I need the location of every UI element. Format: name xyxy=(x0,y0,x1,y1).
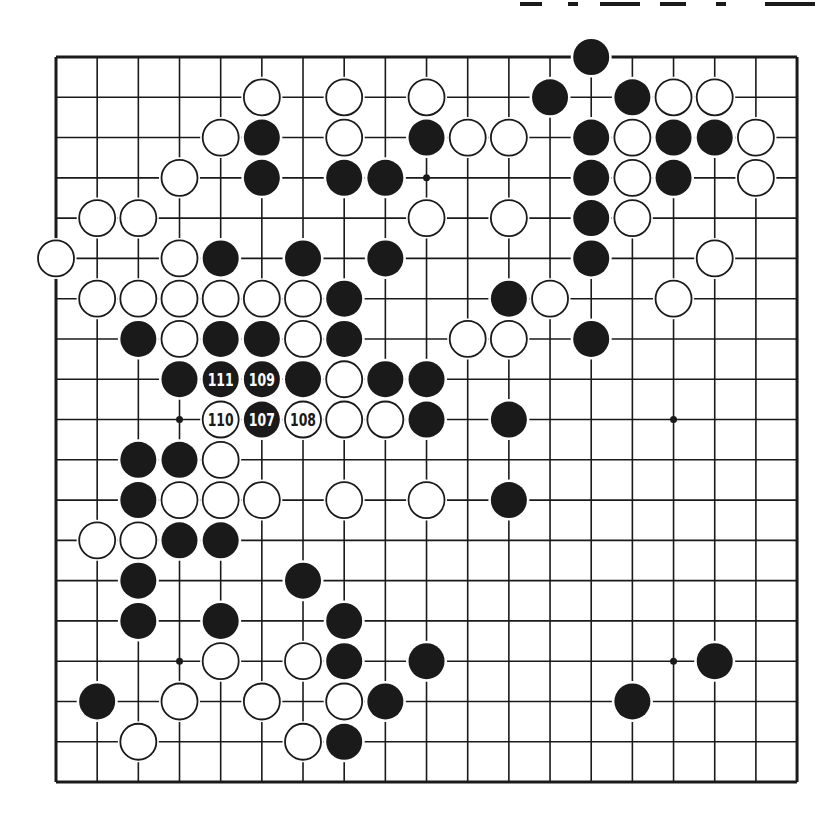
white-stone xyxy=(159,278,200,319)
black-stone: 111 xyxy=(200,359,241,400)
white-stone xyxy=(159,681,200,722)
black-stone xyxy=(283,238,324,279)
black-stone xyxy=(406,359,447,400)
black-stone xyxy=(571,198,612,239)
white-stone xyxy=(447,117,488,158)
black-stone xyxy=(488,278,529,319)
white-stone xyxy=(406,198,447,239)
black-stone xyxy=(488,480,529,521)
black-stone xyxy=(406,117,447,158)
white-stone xyxy=(118,721,159,762)
black-stone xyxy=(283,359,324,400)
black-stone xyxy=(324,157,365,198)
white-stone xyxy=(324,77,365,118)
white-stone xyxy=(324,359,365,400)
white-stone xyxy=(283,318,324,359)
white-stone xyxy=(200,278,241,319)
white-stone xyxy=(77,198,118,239)
white-stone xyxy=(653,278,694,319)
move-number-label: 108 xyxy=(290,410,316,430)
black-stone xyxy=(571,37,612,78)
go-board: 111109110107108 xyxy=(0,0,837,820)
move-number-label: 110 xyxy=(208,410,234,430)
white-stone xyxy=(488,198,529,239)
black-stone xyxy=(118,600,159,641)
white-stone xyxy=(488,117,529,158)
white-stone xyxy=(159,318,200,359)
black-stone xyxy=(365,359,406,400)
white-stone xyxy=(694,238,735,279)
black-stone xyxy=(118,439,159,480)
white-stone xyxy=(77,278,118,319)
white-stone xyxy=(200,641,241,682)
white-stone xyxy=(159,238,200,279)
white-stone xyxy=(406,480,447,521)
star-point-icon xyxy=(670,658,677,665)
black-stone xyxy=(324,721,365,762)
move-number-label: 109 xyxy=(249,370,275,390)
white-stone xyxy=(200,480,241,521)
black-stone xyxy=(694,117,735,158)
white-stone xyxy=(324,117,365,158)
black-stone xyxy=(612,681,653,722)
black-stone xyxy=(118,318,159,359)
move-number-label: 107 xyxy=(249,410,275,430)
black-stone xyxy=(530,77,571,118)
black-stone xyxy=(324,318,365,359)
white-stone: 108 xyxy=(283,399,324,440)
black-stone xyxy=(241,318,282,359)
white-stone xyxy=(653,77,694,118)
move-number-label: 111 xyxy=(208,370,234,390)
white-stone xyxy=(159,480,200,521)
white-stone xyxy=(241,681,282,722)
white-stone xyxy=(159,157,200,198)
white-stone xyxy=(200,117,241,158)
black-stone xyxy=(653,117,694,158)
white-stone xyxy=(612,117,653,158)
white-stone xyxy=(324,681,365,722)
white-stone xyxy=(324,480,365,521)
white-stone xyxy=(447,318,488,359)
star-point-icon xyxy=(670,416,677,423)
white-stone xyxy=(241,278,282,319)
black-stone xyxy=(653,157,694,198)
black-stone xyxy=(118,560,159,601)
black-stone: 109 xyxy=(241,359,282,400)
black-stone xyxy=(159,520,200,561)
white-stone xyxy=(283,641,324,682)
white-stone: 110 xyxy=(200,399,241,440)
white-stone xyxy=(694,77,735,118)
black-stone xyxy=(283,560,324,601)
black-stone xyxy=(324,600,365,641)
black-stone xyxy=(365,681,406,722)
black-stone xyxy=(200,520,241,561)
white-stone xyxy=(241,480,282,521)
white-stone xyxy=(324,399,365,440)
white-stone xyxy=(118,198,159,239)
black-stone xyxy=(159,359,200,400)
black-stone: 107 xyxy=(241,399,282,440)
black-stone xyxy=(365,238,406,279)
black-stone xyxy=(241,117,282,158)
white-stone xyxy=(241,77,282,118)
white-stone xyxy=(118,520,159,561)
white-stone xyxy=(200,439,241,480)
black-stone xyxy=(200,600,241,641)
white-stone xyxy=(365,399,406,440)
black-stone xyxy=(571,318,612,359)
white-stone xyxy=(283,278,324,319)
black-stone xyxy=(77,681,118,722)
black-stone xyxy=(571,117,612,158)
white-stone xyxy=(406,77,447,118)
star-point-icon xyxy=(176,658,183,665)
white-stone xyxy=(530,278,571,319)
white-stone xyxy=(36,238,77,279)
star-point-icon xyxy=(176,416,183,423)
white-stone xyxy=(612,157,653,198)
black-stone xyxy=(571,238,612,279)
black-stone xyxy=(241,157,282,198)
white-stone xyxy=(488,318,529,359)
black-stone xyxy=(694,641,735,682)
black-stone xyxy=(406,641,447,682)
black-stone xyxy=(200,318,241,359)
